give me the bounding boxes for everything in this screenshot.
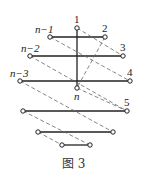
node-row6-right xyxy=(88,143,92,147)
node-row5-right xyxy=(111,130,115,134)
node-3 xyxy=(121,54,125,58)
node-4 xyxy=(128,79,132,83)
node-2 xyxy=(103,35,107,39)
node-n-2 xyxy=(28,54,32,58)
node-row5-left xyxy=(36,130,40,134)
figure-caption: 图 3 xyxy=(62,157,85,171)
dashed-n-5 xyxy=(77,88,127,111)
node-5 xyxy=(125,109,129,113)
dashed-2-n xyxy=(78,37,105,86)
dashed-n3-r5 xyxy=(20,81,113,132)
label-4: 4 xyxy=(127,66,133,78)
dashed-1-3 xyxy=(77,28,123,56)
label-3: 3 xyxy=(120,41,126,53)
node-row4-left xyxy=(21,109,25,113)
dashed-r4-r6 xyxy=(23,111,90,145)
path-diagram: 1 n−1 2 n−2 3 n−3 4 n 5 图 3 xyxy=(0,0,141,178)
label-5: 5 xyxy=(124,96,130,108)
label-n-3: n−3 xyxy=(10,67,29,79)
node-row6-left xyxy=(60,143,64,147)
label-2: 2 xyxy=(102,22,108,34)
node-n-3 xyxy=(18,79,22,83)
dashed-n2-5 xyxy=(30,56,127,111)
label-n-1: n−1 xyxy=(35,23,53,35)
node-1 xyxy=(75,26,79,30)
label-1: 1 xyxy=(74,13,80,25)
label-n: n xyxy=(74,90,80,102)
dashed-n1-4 xyxy=(50,37,130,81)
dashed-r5-r6 xyxy=(38,132,62,145)
label-n-2: n−2 xyxy=(21,42,40,54)
node-n-1 xyxy=(48,35,52,39)
